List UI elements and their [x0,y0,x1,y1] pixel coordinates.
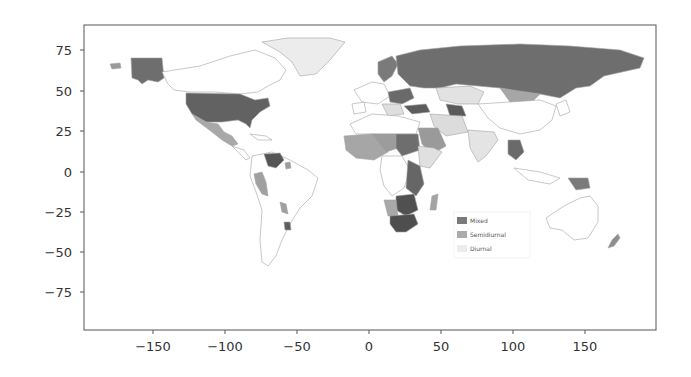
region-india [468,130,498,162]
region-scandinavia [378,56,398,82]
x-tick-label: 50 [433,339,450,354]
region-canada [162,50,286,94]
y-axis [80,50,84,292]
map-area [110,38,644,266]
region-guyana [285,162,291,169]
region-indonesia [514,168,560,184]
x-tick-label: −50 [283,339,310,354]
region-north-africa [350,114,420,134]
x-tick-label: −150 [135,339,171,354]
x-axis [153,330,585,334]
y-tick-label: −50 [45,245,72,260]
y-tick-label: 75 [55,43,72,58]
legend: Mixed Semidiurnal Diurnal [454,212,530,258]
region-western-europe [354,82,390,104]
y-tick-label: 50 [55,84,72,99]
world-tide-type-map: Mixed Semidiurnal Diurnal 75 50 25 0 −25… [0,0,691,377]
y-tick-labels: 75 50 25 0 −25 −50 −75 [45,43,72,300]
region-south-africa [390,214,418,232]
region-aleutians [110,63,121,69]
region-iberia [352,102,366,114]
region-cuba [250,134,272,140]
x-tick-labels: −150 −100 −50 0 50 100 150 [135,339,597,354]
region-namibia [384,200,398,216]
y-tick-label: −25 [45,205,72,220]
region-central-europe [388,88,414,104]
region-turkey [404,104,430,114]
region-new-zealand [608,234,620,248]
legend-swatch-semidiurnal [457,231,467,238]
x-tick-label: 0 [365,339,373,354]
region-japan [556,100,570,116]
region-zimbabwe-botswana [396,194,418,216]
region-balkans [382,104,404,116]
region-uruguay [284,222,291,230]
region-alaska [131,58,164,84]
region-papua [568,178,590,190]
region-central-africa [380,156,410,196]
legend-swatch-diurnal [457,245,467,252]
region-kazakhstan [436,86,484,104]
region-united-states [186,93,270,128]
region-central-america [232,146,250,160]
region-southeast-asia [508,140,524,160]
legend-swatch-mixed [457,217,467,224]
region-turkmenistan [446,104,466,116]
legend-label-diurnal: Diurnal [470,245,492,252]
y-tick-label: 25 [55,124,72,139]
region-madagascar [430,194,438,210]
y-tick-label: −75 [45,285,72,300]
x-tick-label: 150 [573,339,598,354]
region-russia [396,44,644,98]
legend-label-semidiurnal: Semidiurnal [470,231,506,238]
y-tick-label: 0 [64,165,72,180]
x-tick-label: −100 [207,339,243,354]
region-china [478,100,556,134]
region-sudan [396,134,420,156]
x-tick-label: 100 [501,339,526,354]
legend-label-mixed: Mixed [470,217,488,224]
region-australia [546,196,598,240]
